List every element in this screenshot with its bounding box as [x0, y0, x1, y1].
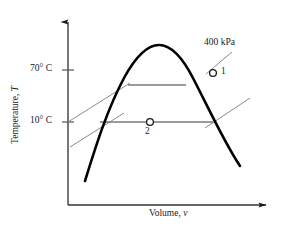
isobar-upper-line	[68, 83, 130, 122]
x-axis-label-prefix: Volume,	[149, 208, 183, 218]
y-tick-label-10: 10° C	[30, 116, 52, 126]
pressure-annotation-label: 400 kPa	[204, 38, 235, 48]
state-point-1-label: 1	[221, 67, 226, 77]
y-axis-label-symbol: T	[10, 86, 20, 91]
x-axis-label-symbol: v	[183, 208, 187, 218]
y-tick-label-70: 70° C	[30, 64, 52, 74]
figure-container: Temperature, T 70° C 10° C 400 kPa 1 2 V…	[0, 0, 291, 230]
state-point-2-label: 2	[145, 127, 150, 137]
x-axis-label: Volume, v	[149, 209, 187, 219]
state-point-2-marker	[147, 119, 154, 126]
y-axis-label-prefix: Temperature,	[10, 91, 20, 144]
y-axis-label-text: Temperature, T	[10, 86, 20, 144]
state-point-1-marker	[210, 70, 217, 77]
y-axis-label: Temperature, T	[8, 60, 22, 170]
